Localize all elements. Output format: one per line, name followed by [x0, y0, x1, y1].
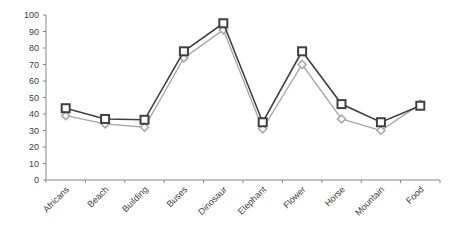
y-axis: 0102030405060708090100	[24, 10, 46, 185]
x-tick-label: Elephant	[236, 184, 269, 217]
square-marker	[101, 115, 109, 123]
series-1	[62, 19, 425, 126]
x-tick-label: Food	[404, 184, 426, 206]
square-marker	[416, 102, 424, 110]
x-tick-label: Dinosaur	[196, 184, 229, 217]
y-tick-label: 60	[29, 76, 39, 86]
line-chart: 0102030405060708090100 AfricansBeachBuil…	[0, 0, 460, 230]
square-marker	[298, 47, 306, 55]
y-tick-label: 80	[29, 43, 39, 53]
square-marker	[141, 116, 149, 124]
square-marker	[377, 118, 385, 126]
square-marker	[338, 100, 346, 108]
x-tick-label: Beach	[85, 184, 110, 209]
x-tick-label: Africans	[41, 184, 71, 214]
x-tick-label: Horse	[323, 184, 347, 208]
series-line	[66, 23, 421, 122]
y-tick-label: 10	[29, 159, 39, 169]
square-marker	[62, 104, 70, 112]
x-tick-label: Building	[120, 184, 150, 214]
y-tick-label: 100	[24, 10, 39, 20]
y-tick-label: 30	[29, 126, 39, 136]
diamond-marker	[377, 127, 385, 135]
y-tick-label: 90	[29, 27, 39, 37]
series-layer	[62, 19, 425, 134]
y-tick-label: 0	[34, 175, 39, 185]
y-tick-label: 50	[29, 93, 39, 103]
x-tick-label: Flower	[281, 184, 307, 210]
x-tick-label: Buses	[165, 184, 190, 209]
y-tick-label: 70	[29, 60, 39, 70]
square-marker	[219, 19, 227, 27]
square-marker	[259, 118, 267, 126]
x-tick-label: Mountain	[353, 184, 386, 217]
square-marker	[180, 47, 188, 55]
y-tick-label: 40	[29, 109, 39, 119]
y-tick-label: 20	[29, 142, 39, 152]
x-axis: AfricansBeachBuildingBusesDinosaurElepha…	[41, 180, 440, 218]
series-2	[62, 26, 425, 135]
